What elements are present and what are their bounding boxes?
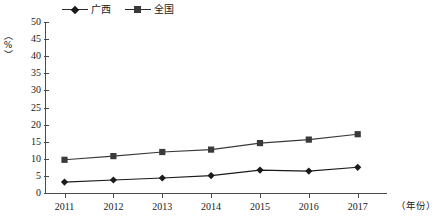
- y-tick-label: 20: [31, 120, 41, 130]
- data-point-marker: [355, 131, 361, 137]
- y-tick-label: 0: [36, 188, 41, 198]
- data-point-marker: [208, 172, 215, 179]
- x-tick-label: 2011: [55, 201, 75, 212]
- legend-item-national: 全国: [125, 5, 174, 15]
- series-plot: [45, 20, 420, 195]
- x-tick-label: 2015: [250, 201, 270, 212]
- legend-label-national: 全国: [154, 5, 174, 15]
- y-tick-label: 45: [31, 34, 41, 44]
- data-point-marker: [208, 147, 214, 153]
- y-tick-label: 25: [31, 103, 41, 113]
- data-point-marker: [61, 179, 68, 186]
- data-point-marker: [61, 157, 67, 163]
- legend-line-swatch-guangxi: [62, 5, 88, 15]
- y-tick-label: 15: [31, 137, 41, 147]
- line-chart-figure: 广西 全国 （%） 05101520253035404550 201120122…: [0, 0, 439, 219]
- data-point-marker: [257, 140, 263, 146]
- data-point-marker: [159, 149, 165, 155]
- y-tick-label: 35: [31, 68, 41, 78]
- y-axis-title: （%）: [1, 22, 15, 68]
- y-tick-label: 50: [31, 17, 41, 27]
- x-tick-label: 2012: [103, 201, 123, 212]
- data-point-marker: [159, 174, 166, 181]
- square-marker-icon: [134, 6, 141, 13]
- legend-line-swatch-national: [125, 5, 151, 15]
- data-point-marker: [306, 137, 312, 143]
- data-point-marker: [110, 176, 117, 183]
- data-point-marker: [305, 168, 312, 175]
- legend-item-guangxi: 广西: [62, 5, 111, 15]
- x-tick-label: 2017: [348, 201, 368, 212]
- data-point-marker: [256, 167, 263, 174]
- y-tick-label: 30: [31, 85, 41, 95]
- x-axis-title: （年份）: [396, 200, 436, 212]
- x-tick-label: 2014: [201, 201, 221, 212]
- x-tick-label: 2016: [299, 201, 319, 212]
- legend-label-guangxi: 广西: [91, 5, 111, 15]
- plot-area: 05101520253035404550 2011201220132014201…: [45, 20, 420, 195]
- data-point-marker: [110, 153, 116, 159]
- y-tick-label: 40: [31, 51, 41, 61]
- y-tick-label: 5: [36, 171, 41, 181]
- chart-legend: 广西 全国: [62, 1, 174, 19]
- diamond-marker-icon: [71, 6, 79, 14]
- y-tick-label: 10: [31, 154, 41, 164]
- x-tick-label: 2013: [152, 201, 172, 212]
- data-point-marker: [354, 164, 361, 171]
